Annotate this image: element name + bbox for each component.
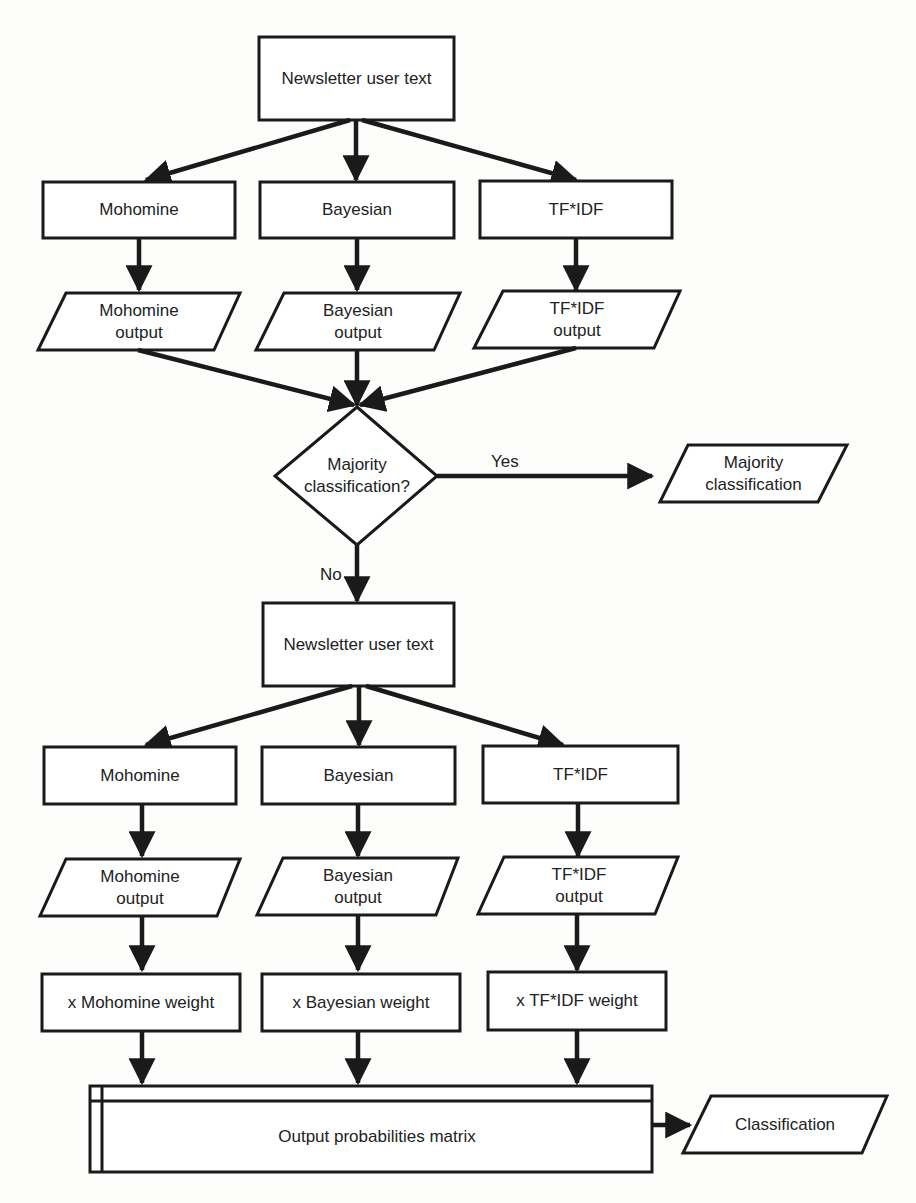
yes-label: Yes xyxy=(491,452,519,472)
weight-label-tfidf: x TF*IDF weight xyxy=(488,972,666,1030)
matrix-label: Output probabilities matrix xyxy=(102,1101,652,1172)
output-label-tfidf-2: TF*IDF output xyxy=(491,857,667,914)
classifier-label-mohomine-1: Mohomine xyxy=(43,182,235,238)
decision-label: Majority classification? xyxy=(285,446,429,506)
input-label-2: Newsletter user text xyxy=(263,603,454,686)
arrow xyxy=(146,686,352,745)
weight-label-bayesian: x Bayesian weight xyxy=(262,974,460,1031)
classifier-label-mohomine-2: Mohomine xyxy=(44,747,236,804)
classifier-label-tfidf-2: TF*IDF xyxy=(483,746,678,803)
arrow xyxy=(360,348,576,405)
majority-result-label: Majority classification xyxy=(674,445,833,502)
input-label-1: Newsletter user text xyxy=(259,37,454,120)
classifier-label-tfidf-1: TF*IDF xyxy=(480,181,672,238)
classification-label: Classification xyxy=(697,1096,873,1153)
output-label-bayesian-2: Bayesian output xyxy=(270,858,446,915)
output-label-mohomine-1: Mohomine output xyxy=(52,293,226,350)
weight-label-mohomine: x Mohomine weight xyxy=(42,974,240,1031)
classifier-label-bayesian-2: Bayesian xyxy=(262,747,455,804)
arrow xyxy=(146,120,350,180)
no-label: No xyxy=(320,565,342,585)
classifier-label-bayesian-1: Bayesian xyxy=(260,182,454,238)
output-label-mohomine-2: Mohomine output xyxy=(53,859,227,916)
output-label-tfidf-1: TF*IDF output xyxy=(488,291,666,348)
output-label-bayesian-1: Bayesian output xyxy=(270,293,446,350)
arrow xyxy=(138,350,354,405)
arrow xyxy=(362,120,576,180)
arrow xyxy=(366,686,563,745)
flowchart-canvas: Newsletter user text Mohomine Bayesian T… xyxy=(0,0,916,1203)
